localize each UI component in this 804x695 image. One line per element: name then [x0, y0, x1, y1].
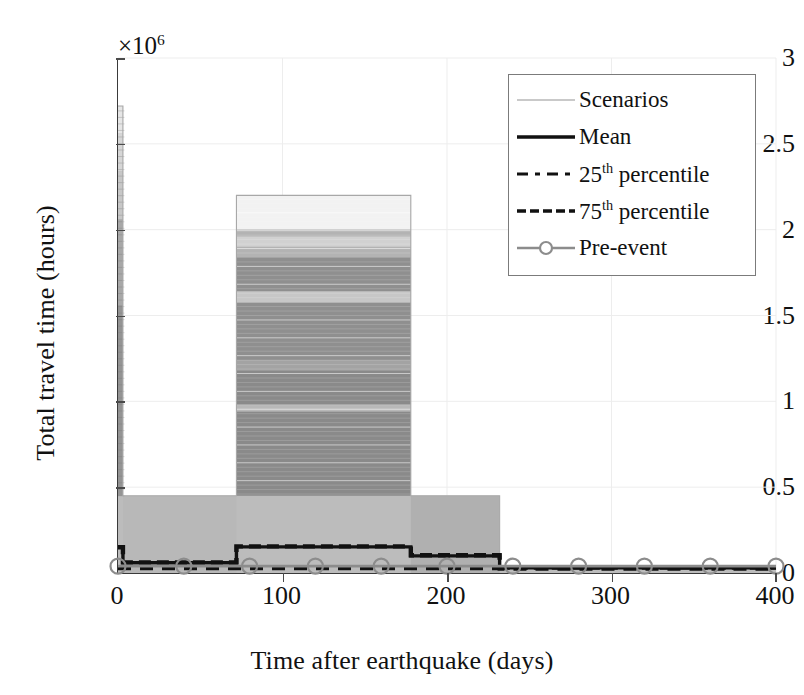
- exponent-prefix: ×10: [118, 32, 157, 59]
- legend-item-25th-percentile[interactable]: 25th percentile: [515, 155, 747, 192]
- x-tick-label-400: 400: [756, 583, 795, 609]
- x-tick-label-300: 300: [591, 583, 630, 609]
- legend-label-75th-percentile: 75th percentile: [577, 198, 710, 223]
- dashed-line-icon: [515, 162, 577, 186]
- legend-item-pre-event[interactable]: Pre-event: [515, 229, 747, 266]
- chart-legend: Scenarios Mean 25th percentile: [508, 74, 756, 276]
- figure-container: ×106 3 2.5 2 1.5 1 0.5 0 0 100 200 300 4…: [0, 0, 804, 695]
- legend-item-75th-percentile[interactable]: 75th percentile: [515, 192, 747, 229]
- y-tickmark-2: [116, 230, 125, 232]
- y-axis-title-wrap: Total travel time (hours): [31, 23, 65, 643]
- x-tick-label-0: 0: [111, 583, 124, 609]
- legend-label-mean: Mean: [577, 125, 631, 148]
- legend-75-prefix: 75: [579, 199, 602, 224]
- y-axis-title: Total travel time (hours): [31, 205, 61, 461]
- exponent-power: 6: [157, 31, 165, 48]
- y-tickmark-2_5: [116, 144, 125, 146]
- legend-25-prefix: 25: [579, 162, 602, 187]
- x-tickmark-100: [283, 573, 285, 582]
- legend-label-25th-percentile: 25th percentile: [577, 161, 710, 186]
- legend-item-mean[interactable]: Mean: [515, 118, 747, 155]
- y-tickmark-1_5: [116, 316, 125, 318]
- legend-75-suffix: percentile: [613, 199, 709, 224]
- x-axis-title: Time after earthquake (days): [0, 646, 804, 676]
- dashed-heavy-line-icon: [515, 199, 577, 223]
- x-tickmark-300: [612, 573, 614, 582]
- y-tickmark-1: [116, 401, 125, 403]
- x-tickmark-400: [775, 573, 777, 582]
- y-tickmark-0_5: [116, 487, 125, 489]
- x-tick-label-100: 100: [262, 583, 301, 609]
- y-tickmark-3: [116, 58, 125, 60]
- y-axis-exponent-label: ×106: [118, 31, 165, 60]
- x-tickmark-200: [447, 573, 449, 582]
- x-tick-label-200: 200: [427, 583, 466, 609]
- pre-event-line-marker-icon: [515, 236, 577, 260]
- legend-25-sup: th: [602, 160, 613, 176]
- legend-label-pre-event: Pre-event: [577, 236, 667, 259]
- legend-item-scenarios[interactable]: Scenarios: [515, 81, 747, 118]
- legend-75-sup: th: [602, 197, 613, 213]
- legend-25-suffix: percentile: [613, 162, 709, 187]
- legend-label-scenarios: Scenarios: [577, 88, 668, 111]
- mean-line-icon: [515, 125, 577, 149]
- scenarios-line-icon: [515, 88, 577, 112]
